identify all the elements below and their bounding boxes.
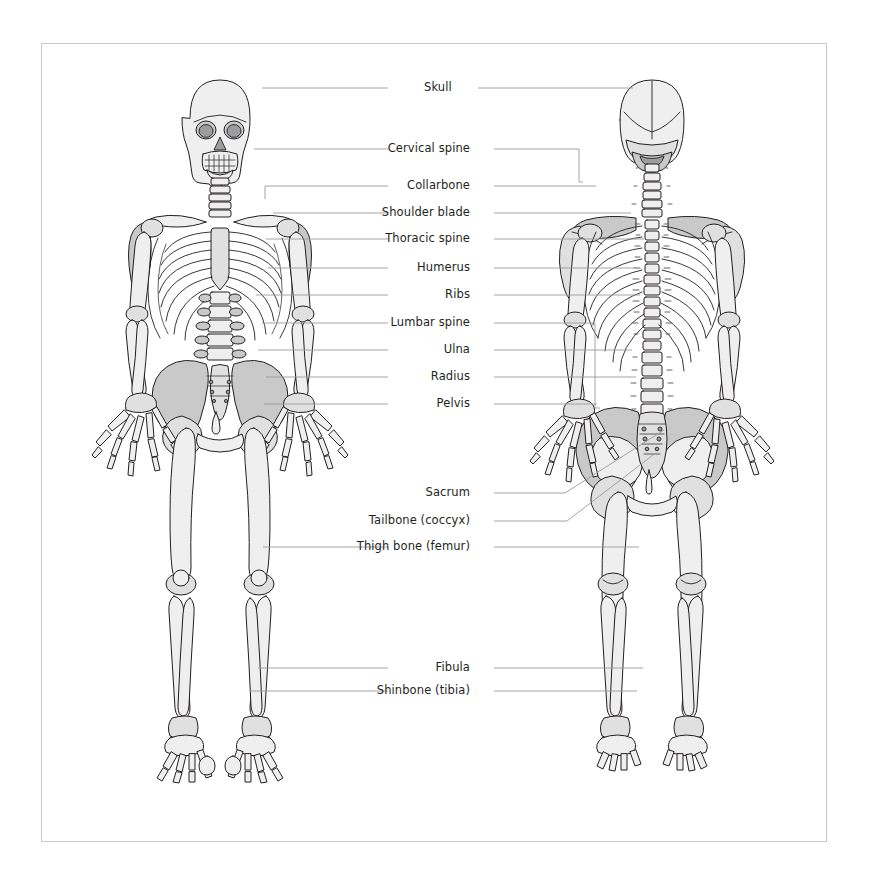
label-tailbone: Tailbone (coccyx) bbox=[0, 515, 470, 527]
label-radius: Radius bbox=[0, 371, 470, 383]
anterior-left-leg bbox=[157, 428, 215, 783]
anterior-right-leg bbox=[225, 428, 283, 783]
label-lumbar: Lumbar spine bbox=[0, 317, 470, 329]
label-pelvis: Pelvis bbox=[0, 398, 470, 410]
label-shoulder: Shoulder blade bbox=[0, 207, 470, 219]
label-cervical: Cervical spine bbox=[0, 143, 470, 155]
anterior-skull bbox=[182, 80, 250, 188]
posterior-right-leg bbox=[663, 492, 707, 771]
label-sacrum: Sacrum bbox=[0, 487, 470, 499]
posterior-skeleton bbox=[530, 80, 774, 771]
label-femur: Thigh bone (femur) bbox=[0, 541, 470, 553]
label-thoracic: Thoracic spine bbox=[0, 233, 470, 245]
diagram-page: SkullCervical spineCollarboneShoulder bl… bbox=[0, 0, 876, 887]
label-humerus: Humerus bbox=[0, 262, 470, 274]
posterior-left-leg bbox=[597, 492, 641, 771]
label-tibia: Shinbone (tibia) bbox=[0, 685, 470, 697]
posterior-cervical-spine bbox=[632, 164, 672, 217]
label-skull: Skull bbox=[424, 82, 452, 94]
label-collarbone: Collarbone bbox=[0, 180, 470, 192]
posterior-lumbar-spine bbox=[631, 352, 673, 415]
leader-cervical-bracket bbox=[494, 149, 583, 182]
label-ulna: Ulna bbox=[0, 344, 470, 356]
posterior-skull bbox=[620, 80, 684, 172]
label-ribs: Ribs bbox=[0, 289, 470, 301]
skeleton-illustration bbox=[0, 0, 876, 887]
label-fibula: Fibula bbox=[0, 662, 470, 674]
